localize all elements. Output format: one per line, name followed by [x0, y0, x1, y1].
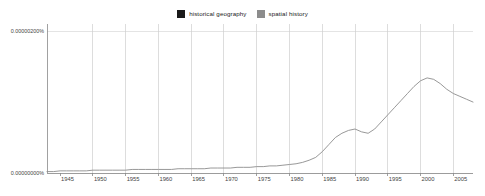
x-tick-labels: 1945195019551960196519701975198019851990…: [60, 173, 467, 182]
x-axis-tick-label: 1965: [192, 176, 205, 182]
ngram-viewer-chart: historical geography spatial history 0.0…: [0, 0, 485, 196]
x-axis-tick-label: 2000: [422, 176, 435, 182]
y-axis-tick-label: 0.00000000%: [11, 170, 44, 176]
x-axis-tick-label: 1975: [258, 176, 271, 182]
x-axis-tick-label: 1960: [159, 176, 172, 182]
x-gridlines: [93, 24, 453, 173]
x-axis-tick-label: 1970: [225, 176, 238, 182]
x-axis-tick-label: 1990: [356, 176, 369, 182]
x-axis-tick-label: 2005: [454, 176, 467, 182]
x-axis-tick-label: 1995: [389, 176, 402, 182]
y-tick-labels: 0.00000000%0.00000200%0.00000400%0.00000…: [11, 0, 44, 176]
x-axis-tick-label: 1950: [94, 176, 107, 182]
plot-area: 0.00000000%0.00000200%0.00000400%0.00000…: [0, 0, 485, 196]
plot-svg: 0.00000000%0.00000200%0.00000400%0.00000…: [0, 0, 485, 196]
y-axis-tick-label: 0.00000200%: [11, 28, 44, 34]
x-axis-tick-label: 1955: [127, 176, 140, 182]
y-gridlines: [47, 0, 473, 173]
x-axis-tick-label: 1985: [323, 176, 336, 182]
x-axis-tick-label: 1945: [61, 176, 74, 182]
axes: [47, 24, 473, 173]
series-lines: [47, 0, 473, 172]
x-axis-tick-label: 1980: [290, 176, 303, 182]
series-line-spatial-history: [47, 78, 473, 172]
